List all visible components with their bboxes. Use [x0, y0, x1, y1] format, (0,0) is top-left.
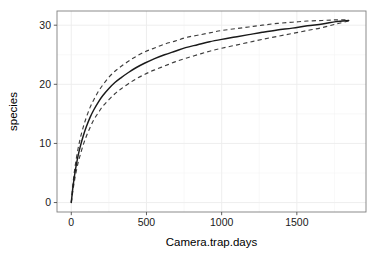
y-tick-label: 10: [39, 137, 51, 149]
x-tick-label: 500: [138, 216, 156, 228]
y-tick-label: 20: [39, 78, 51, 90]
chart-canvas: 050010001500 0102030 Camera.trap.days sp…: [0, 0, 383, 253]
x-axis-ticks: [71, 212, 297, 215]
y-tick-label: 30: [39, 19, 51, 31]
x-tick-label: 1000: [210, 216, 234, 228]
x-axis-tick-labels: 050010001500: [68, 216, 308, 228]
x-tick-label: 1500: [285, 216, 309, 228]
species-accumulation-chart: 050010001500 0102030 Camera.trap.days sp…: [0, 0, 383, 253]
y-axis-ticks: [54, 25, 57, 202]
y-tick-label: 0: [45, 196, 51, 208]
y-axis-tick-labels: 0102030: [39, 19, 51, 208]
y-axis-title: species: [7, 92, 19, 131]
x-axis-title: Camera.trap.days: [166, 236, 258, 248]
x-tick-label: 0: [68, 216, 74, 228]
